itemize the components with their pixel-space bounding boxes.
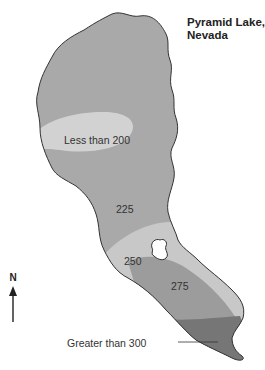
- title-line-1: Pyramid Lake,: [187, 16, 265, 29]
- label-275: 275: [171, 280, 189, 292]
- label-greater-than-300: Greater than 300: [67, 337, 146, 349]
- title-line-2: Nevada: [187, 29, 265, 42]
- map-title: Pyramid Lake, Nevada: [187, 16, 265, 42]
- label-250: 250: [124, 255, 142, 267]
- label-225: 225: [116, 203, 134, 215]
- zone-greater-than-300: [150, 316, 260, 370]
- north-arrow: N: [6, 275, 20, 325]
- north-label: N: [6, 272, 20, 283]
- label-less-than-200: Less than 200: [64, 134, 130, 146]
- lake-map: [0, 0, 265, 370]
- depth-zones: [0, 0, 265, 370]
